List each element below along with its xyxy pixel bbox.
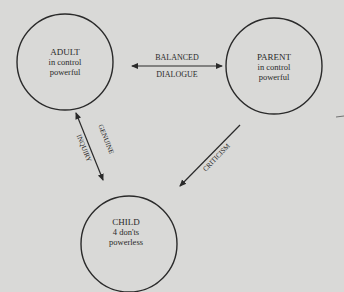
diagram-canvas: ADULT in control powerful PARENT in cont…: [0, 0, 344, 292]
adult-line1: in control: [49, 57, 82, 67]
arrow-icon: [180, 125, 240, 186]
adult-line2: powerful: [50, 67, 81, 77]
adult-title: ADULT: [50, 47, 80, 57]
edge-label-criticism: CRITICISM: [201, 142, 232, 174]
parent-title: PARENT: [257, 52, 292, 62]
node-adult: ADULT in control powerful: [17, 14, 113, 110]
parent-line1: in control: [258, 62, 291, 72]
node-child: CHILD 4 don'ts powerless: [81, 196, 177, 292]
edge-label-balanced: BALANCED: [155, 53, 199, 62]
child-line2: powerless: [109, 237, 143, 247]
child-title: CHILD: [112, 217, 140, 227]
edge-adult-child: GENUINE INQUIRY: [75, 113, 116, 180]
edge-label-genuine: GENUINE: [96, 123, 115, 155]
edge-adult-parent: BALANCED DIALOGUE: [132, 53, 222, 79]
child-line1: 4 don'ts: [113, 227, 139, 237]
edge-parent-child: CRITICISM: [180, 125, 240, 186]
parent-line2: powerful: [259, 72, 290, 82]
node-parent: PARENT in control powerful: [226, 18, 322, 114]
margin-mark: [336, 116, 344, 117]
edge-label-dialogue: DIALOGUE: [156, 70, 197, 79]
